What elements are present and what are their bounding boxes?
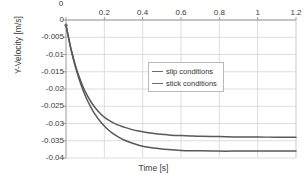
x-axis-tick-labels: 0.20.40.60.811.20 bbox=[0, 5, 307, 19]
chart-legend: slip conditions stick conditions bbox=[148, 62, 224, 92]
x-axis-tick-label: 1.2 bbox=[283, 9, 307, 17]
y-axis-tick-label: -0.025 bbox=[26, 102, 64, 110]
x-axis-tick-label: 0.2 bbox=[91, 9, 117, 17]
legend-item: stick conditions bbox=[152, 78, 220, 89]
x-axis-tick-label: 1 bbox=[245, 9, 271, 17]
y-axis-tick-label: -0.04 bbox=[26, 154, 64, 162]
legend-item-label: stick conditions bbox=[166, 80, 217, 88]
y-axis-tick-label: -0.01 bbox=[26, 51, 64, 59]
y-axis-tick-label: -0.015 bbox=[26, 68, 64, 76]
chart-container: 0-0.005-0.01-0.015-0.02-0.025-0.03-0.035… bbox=[0, 0, 307, 184]
legend-line-icon bbox=[152, 71, 163, 72]
x-axis-tick-label: 0.8 bbox=[206, 9, 232, 17]
y-axis-tick-labels: 0-0.005-0.01-0.015-0.02-0.025-0.03-0.035… bbox=[22, 0, 64, 184]
x-axis-tick-label: 0.6 bbox=[168, 9, 194, 17]
y-axis-tick-label: -0.03 bbox=[26, 120, 64, 128]
legend-line-icon bbox=[152, 83, 163, 84]
series-start-marker bbox=[64, 24, 67, 27]
y-axis-tick-label: -0.02 bbox=[26, 85, 64, 93]
y-axis-title: Y-Velocity [m/s] bbox=[13, 0, 23, 115]
y-axis-tick-label: -0.035 bbox=[26, 137, 64, 145]
x-axis-tick-label: 0.4 bbox=[130, 9, 156, 17]
x-axis-title: Time [s] bbox=[0, 163, 307, 173]
legend-item: slip conditions bbox=[152, 66, 220, 77]
y-axis-tick-label: -0.005 bbox=[26, 33, 64, 41]
legend-item-label: slip conditions bbox=[166, 68, 213, 76]
origin-tick-label: 0 bbox=[48, 0, 74, 8]
